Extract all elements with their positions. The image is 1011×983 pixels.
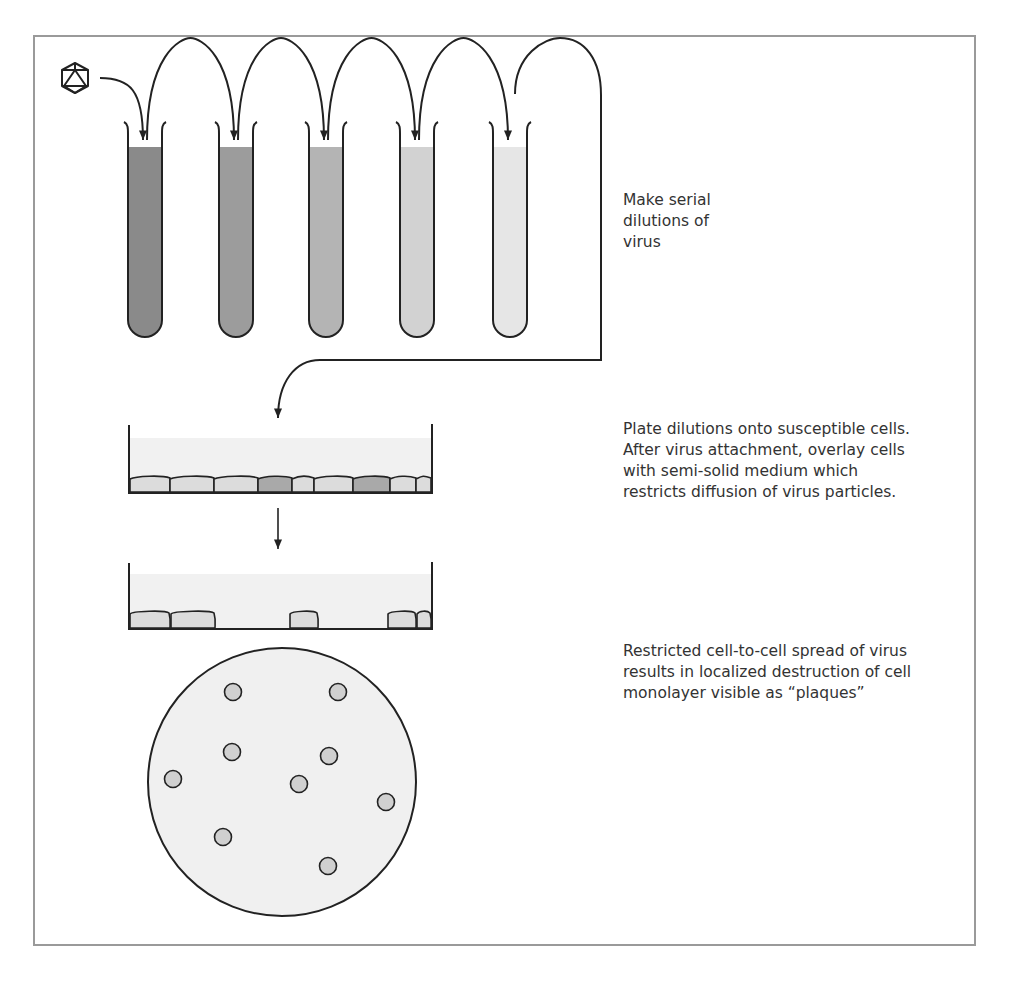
infected-cell	[258, 476, 292, 492]
cell	[170, 476, 214, 492]
cell	[130, 476, 170, 492]
cell	[171, 611, 215, 628]
transfer-arrow	[419, 38, 508, 140]
transfer-arrow	[147, 38, 234, 140]
cell	[290, 611, 318, 628]
test-tube	[396, 122, 438, 337]
plate-circle	[148, 648, 416, 916]
tube-liquid	[400, 147, 434, 337]
cell	[388, 611, 416, 628]
transfer-arrow	[328, 38, 415, 140]
test-tube	[215, 122, 257, 337]
cell	[390, 476, 416, 492]
transfer-arrow	[238, 38, 324, 140]
caption-plate-and-overlay: Plate dilutions onto susceptible cells. …	[623, 419, 983, 503]
cell	[314, 476, 353, 492]
tube-liquid	[309, 147, 343, 337]
plaque	[165, 771, 182, 788]
tube-liquid	[493, 147, 527, 337]
cell	[416, 476, 431, 492]
tube-liquid	[219, 147, 253, 337]
plaque	[320, 858, 337, 875]
plaque	[330, 684, 347, 701]
dish-after-infection	[129, 562, 432, 629]
infected-cell	[353, 476, 390, 492]
plaque-plate	[148, 648, 416, 916]
plaque	[224, 744, 241, 761]
test-tube	[124, 122, 166, 337]
caption-serial-dilution: Make serial dilutions of virus	[623, 190, 793, 253]
plaque	[215, 829, 232, 846]
cell	[292, 476, 314, 492]
transfer-arrow	[100, 78, 143, 140]
cell	[130, 611, 170, 628]
plaque	[378, 794, 395, 811]
tube-liquid	[128, 147, 162, 337]
cell	[417, 611, 431, 628]
test-tube	[489, 122, 531, 337]
dish-with-monolayer	[129, 424, 432, 493]
cell	[214, 476, 258, 492]
plaque	[291, 776, 308, 793]
plaque	[321, 748, 338, 765]
caption-plaque-formation: Restricted cell-to-cell spread of virus …	[623, 641, 983, 704]
icosahedron-virus-icon	[62, 63, 88, 93]
plaque	[225, 684, 242, 701]
test-tube	[305, 122, 347, 337]
